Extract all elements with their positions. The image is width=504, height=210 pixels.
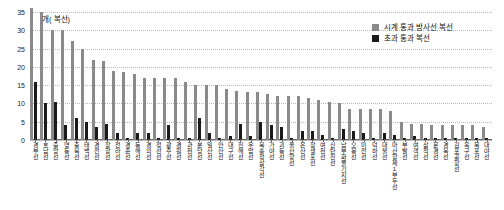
bar-series-1 — [51, 30, 54, 140]
bar-group — [256, 12, 266, 140]
bar-series-2 — [198, 118, 201, 140]
x-axis-tick-label: 경춘선 — [125, 142, 131, 160]
x-axis-tick-cell: 여천선 — [317, 142, 327, 204]
x-axis-tick-label: 진해선 — [237, 142, 243, 160]
x-axis-tick-cell: 문경선 — [430, 142, 440, 204]
y-axis-tick-label: 0 — [21, 137, 25, 144]
y-axis-tick-labels: 05101520253035 — [0, 12, 28, 140]
bar-series-1 — [122, 72, 125, 140]
x-axis-tick-label: 문경선 — [432, 142, 438, 160]
bar-series-2 — [64, 125, 67, 140]
x-axis-tick-label: 여천선 — [320, 142, 326, 160]
bar-group — [266, 12, 276, 140]
x-axis-tick-labels: 경부선호남선중앙선영동선충북선태백선경전선장항선전라선경춘선동해선경의선정선선광… — [30, 142, 492, 204]
bar-series-1 — [359, 109, 362, 140]
x-axis-tick-cell: 장생포선 — [307, 142, 317, 204]
bar-group — [61, 12, 71, 140]
bar-group — [348, 12, 358, 140]
bar-group — [153, 12, 163, 140]
bar-chart: 05101520253035 개( 복선) 시계 통과 방사선 복선 초과 통과… — [0, 0, 504, 210]
bar-series-2 — [259, 122, 262, 140]
x-axis-tick-cell: 경북선 — [441, 142, 451, 204]
bar-group — [225, 12, 235, 140]
x-axis-tick-label: 경북선 — [443, 142, 449, 160]
bar-group — [328, 12, 338, 140]
legend-label-series-2: 초과 통과 복선 — [384, 35, 430, 43]
bar-group — [287, 12, 297, 140]
x-axis-tick-label: 경의선 — [145, 142, 151, 160]
x-axis-tick-label: 대야선 — [484, 142, 490, 160]
y-axis-tick-label: 20 — [17, 63, 25, 70]
bar-group — [102, 12, 112, 140]
bar-group — [81, 12, 91, 140]
bar-group — [51, 12, 61, 140]
bar-series-1 — [71, 41, 74, 140]
x-axis-tick-label: 미전선 — [361, 142, 367, 160]
x-axis-tick-cell: 경원선 — [174, 142, 184, 204]
legend-item-series-1: 시계 통과 방사선 복선 — [372, 24, 453, 32]
x-axis-tick-label: 경원선 — [176, 142, 182, 160]
x-axis-tick-cell: 경춘선 — [122, 142, 132, 204]
x-axis-tick-cell: 동해선 — [133, 142, 143, 204]
bar-series-1 — [471, 125, 474, 140]
bar-group — [30, 12, 40, 140]
bar-series-1 — [61, 30, 64, 140]
bar-group — [133, 12, 143, 140]
bar-series-2 — [167, 125, 170, 140]
x-axis-tick-label: 온산선 — [299, 142, 305, 160]
x-axis-tick-cell: 충북선 — [71, 142, 81, 204]
bar-series-2 — [85, 122, 88, 140]
x-axis-tick-label: 전라선 — [114, 142, 120, 160]
x-axis-tick-label: 목포선 — [474, 142, 480, 160]
bar-group — [40, 12, 50, 140]
bar-group — [482, 12, 492, 140]
bar-group — [163, 12, 173, 140]
x-axis-tick-cell: 호남선 — [40, 142, 50, 204]
bar-series-1 — [225, 89, 228, 140]
x-axis-tick-cell: 진해선 — [235, 142, 245, 204]
x-axis-tick-cell: 신탄진선 — [328, 142, 338, 204]
x-axis-tick-label: 분당선 — [196, 142, 202, 160]
bar-series-1 — [430, 125, 433, 140]
bar-series-1 — [276, 96, 279, 140]
y-axis-tick-label: 5 — [21, 118, 25, 125]
x-axis-tick-cell: 옥구선 — [461, 142, 471, 204]
bar-series-1 — [348, 109, 351, 140]
x-axis-tick-label: 북송정삼각선 — [258, 142, 264, 178]
x-axis-tick-cell: 경의선 — [143, 142, 153, 204]
x-axis-tick-label: 덕하선 — [371, 142, 377, 160]
bar-series-1 — [441, 125, 444, 140]
bar-group — [471, 12, 481, 140]
bar-series-1 — [235, 91, 238, 140]
bar-series-2 — [105, 124, 108, 140]
legend-label-series-1: 시계 통과 방사선 복선 — [384, 24, 453, 32]
bar-group — [205, 12, 215, 140]
x-axis-tick-label: 마산항제1부두선 — [391, 142, 397, 190]
x-axis-tick-label: 영동선 — [63, 142, 69, 160]
bar-series-1 — [287, 96, 290, 140]
bar-series-1 — [40, 12, 43, 140]
bar-group — [112, 12, 122, 140]
x-axis-tick-cell: 대불선 — [379, 142, 389, 204]
bar-series-1 — [420, 124, 423, 140]
bar-series-1 — [92, 60, 95, 140]
bar-series-1 — [184, 82, 187, 141]
x-axis-tick-label: 경부선 — [32, 142, 38, 160]
bar-group — [184, 12, 194, 140]
bar-group — [194, 12, 204, 140]
bar-group — [317, 12, 327, 140]
bar-series-1 — [389, 111, 392, 140]
x-axis-tick-cell: 전라선 — [112, 142, 122, 204]
x-axis-tick-cell: 마산항제1부두선 — [389, 142, 399, 204]
x-axis-tick-cell: 삼척선 — [420, 142, 430, 204]
x-axis-tick-cell: 정선선 — [153, 142, 163, 204]
x-axis-tick-label: 대구선 — [227, 142, 233, 160]
bar-group — [297, 12, 307, 140]
x-axis-tick-cell: 가야선 — [266, 142, 276, 204]
x-axis-tick-label: 충북선 — [73, 142, 79, 160]
bar-series-1 — [174, 78, 177, 140]
bar-series-2 — [44, 103, 47, 140]
x-axis-tick-label: 동해선 — [135, 142, 141, 160]
chart-legend: 시계 통과 방사선 복선 초과 통과 복선 — [372, 24, 453, 42]
bar-series-1 — [153, 78, 156, 140]
